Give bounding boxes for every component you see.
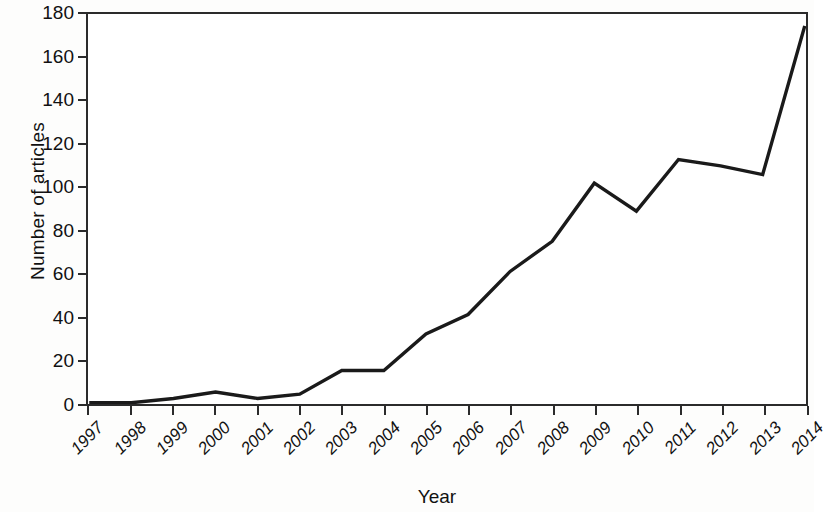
x-tick-mark-2010 (637, 406, 639, 415)
x-tick-label-2002: 2002 (279, 418, 320, 459)
x-tick-label-2010: 2010 (618, 418, 659, 459)
x-tick-mark-2003 (341, 406, 343, 415)
y-tick-mark-60 (78, 273, 86, 275)
x-tick-mark-1997 (87, 406, 89, 415)
x-tick-label-2012: 2012 (702, 418, 743, 459)
x-tick-label-2008: 2008 (533, 418, 574, 459)
x-tick-label-2011: 2011 (661, 418, 701, 458)
y-tick-label-0: 0 (14, 394, 74, 416)
y-tick-mark-180 (78, 12, 86, 14)
x-tick-mark-2005 (426, 406, 428, 415)
x-tick-mark-2004 (384, 406, 386, 415)
y-tick-mark-20 (78, 360, 86, 362)
x-tick-label-2001: 2001 (237, 418, 278, 459)
y-tick-mark-100 (78, 186, 86, 188)
x-tick-label-1997: 1997 (68, 418, 109, 459)
y-tick-label-180: 180 (14, 2, 74, 24)
x-tick-label-2003: 2003 (321, 418, 362, 459)
x-tick-mark-2007 (510, 406, 512, 415)
x-axis-title-container: Year (0, 486, 814, 508)
y-tick-label-100: 100 (14, 176, 74, 198)
x-tick-label-2009: 2009 (575, 418, 616, 459)
x-tick-label-2005: 2005 (406, 418, 447, 459)
x-tick-mark-2008 (553, 406, 555, 415)
y-tick-mark-0 (78, 404, 86, 406)
y-tick-label-40: 40 (14, 307, 74, 329)
x-tick-mark-2006 (468, 406, 470, 415)
y-tick-label-160: 160 (14, 46, 74, 68)
x-tick-label-2004: 2004 (364, 418, 405, 459)
y-tick-label-60: 60 (14, 263, 74, 285)
y-tick-label-20: 20 (14, 350, 74, 372)
y-tick-mark-120 (78, 143, 86, 145)
x-tick-mark-2014 (807, 406, 809, 415)
x-axis-title: Year (418, 486, 456, 507)
y-tick-label-80: 80 (14, 220, 74, 242)
x-tick-mark-1998 (130, 406, 132, 415)
y-tick-label-120: 120 (14, 133, 74, 155)
x-tick-mark-2013 (764, 406, 766, 415)
data-polyline (89, 26, 805, 403)
x-tick-mark-2000 (214, 406, 216, 415)
x-tick-mark-2009 (595, 406, 597, 415)
y-tick-mark-80 (78, 230, 86, 232)
line-series-number-of-articles (88, 14, 806, 404)
x-tick-label-2007: 2007 (491, 418, 532, 459)
y-tick-mark-40 (78, 317, 86, 319)
y-tick-label-140: 140 (14, 89, 74, 111)
x-tick-mark-2002 (299, 406, 301, 415)
x-tick-mark-2011 (680, 406, 682, 415)
x-tick-label-2000: 2000 (194, 418, 235, 459)
y-tick-mark-160 (78, 56, 86, 58)
x-tick-label-1999: 1999 (152, 418, 193, 459)
x-tick-label-2013: 2013 (745, 418, 786, 459)
y-tick-mark-140 (78, 99, 86, 101)
x-tick-label-1998: 1998 (110, 418, 151, 459)
x-tick-mark-1999 (172, 406, 174, 415)
x-tick-mark-2001 (257, 406, 259, 415)
x-tick-label-2006: 2006 (448, 418, 489, 459)
plot-area (86, 12, 808, 406)
x-tick-label-2014: 2014 (787, 418, 827, 459)
x-tick-mark-2012 (722, 406, 724, 415)
